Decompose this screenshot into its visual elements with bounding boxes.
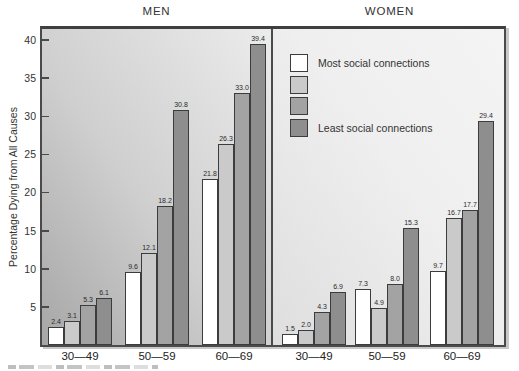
bar-men-60-69-series3 xyxy=(234,93,250,345)
bar-men-50-59-series1 xyxy=(125,272,141,345)
bar-women-30-49-series1 xyxy=(282,334,298,345)
bar-men-60-69-series1 xyxy=(202,179,218,345)
bar-value-label: 2.0 xyxy=(293,321,319,329)
bar-value-label: 15.3 xyxy=(398,219,424,227)
y-tick-label: 15 xyxy=(12,225,36,237)
bar-value-label: 6.9 xyxy=(325,283,351,291)
x-axis-label: 30—49 xyxy=(48,350,112,362)
y-tick-label: 20 xyxy=(12,186,36,198)
y-tick-label: 25 xyxy=(12,148,36,160)
plot-area: 2.43.15.36.19.612.118.230.821.826.333.03… xyxy=(40,26,506,347)
y-tick-mark xyxy=(42,306,49,308)
bar-value-label: 9.6 xyxy=(120,263,146,271)
bar-value-label: 16.7 xyxy=(441,209,467,217)
bar-value-label: 17.7 xyxy=(457,201,483,209)
bar-value-label: 12.1 xyxy=(136,244,162,252)
x-axis-label: 60—69 xyxy=(202,350,266,362)
y-tick-mark xyxy=(42,39,49,41)
bar-women-50-59-series3 xyxy=(387,284,403,345)
legend-swatch xyxy=(290,54,308,72)
x-axis-label: 50—59 xyxy=(355,350,419,362)
bar-women-30-49-series4 xyxy=(330,292,346,345)
bar-women-60-69-series1 xyxy=(430,271,446,345)
legend-label: Least social connections xyxy=(318,122,432,134)
y-tick-label: 5 xyxy=(12,301,36,313)
bar-value-label: 18.2 xyxy=(152,197,178,205)
bar-women-50-59-series2 xyxy=(371,308,387,345)
bar-value-label: 4.9 xyxy=(366,299,392,307)
y-tick-mark xyxy=(42,116,49,118)
bar-value-label: 8.0 xyxy=(382,275,408,283)
y-tick-mark xyxy=(42,154,49,156)
bar-women-60-69-series2 xyxy=(446,218,462,345)
x-axis-label: 60—69 xyxy=(430,350,494,362)
bar-men-30-49-series4 xyxy=(96,298,112,345)
bar-value-label: 6.1 xyxy=(91,289,117,297)
y-tick-mark xyxy=(42,230,49,232)
bar-value-label: 33.0 xyxy=(229,84,255,92)
panel-title-women: WOMEN xyxy=(273,5,506,19)
bar-men-50-59-series3 xyxy=(157,206,173,345)
bar-men-30-49-series3 xyxy=(80,305,96,345)
legend-swatch xyxy=(290,76,308,94)
y-tick-mark xyxy=(42,77,49,79)
y-tick-mark xyxy=(42,268,49,270)
bar-value-label: 9.7 xyxy=(425,262,451,270)
bar-value-label: 29.4 xyxy=(473,112,499,120)
panel-divider xyxy=(271,29,273,345)
bar-value-label: 3.1 xyxy=(59,312,85,320)
cropped-caption-fragment xyxy=(8,365,158,369)
bar-value-label: 39.4 xyxy=(245,35,271,43)
legend-swatch xyxy=(290,97,308,115)
bar-value-label: 26.3 xyxy=(213,135,239,143)
x-axis-label: 50—59 xyxy=(125,350,189,362)
figure: MEN WOMEN Percentage Dying from All Caus… xyxy=(0,0,519,371)
legend-label: Most social connections xyxy=(318,57,429,69)
panel-title-men: MEN xyxy=(40,5,273,19)
bar-men-30-49-series1 xyxy=(48,327,64,345)
bar-value-label: 21.8 xyxy=(197,170,223,178)
legend-swatch xyxy=(290,119,308,137)
bar-value-label: 30.8 xyxy=(168,101,194,109)
y-tick-mark xyxy=(42,192,49,194)
bar-women-60-69-series4 xyxy=(478,121,494,345)
bar-women-60-69-series3 xyxy=(462,210,478,345)
y-tick-label: 40 xyxy=(12,34,36,46)
bar-men-50-59-series4 xyxy=(173,110,189,345)
y-tick-label: 35 xyxy=(12,72,36,84)
x-axis-label: 30—49 xyxy=(282,350,346,362)
y-tick-label: 30 xyxy=(12,110,36,122)
bar-value-label: 7.3 xyxy=(350,280,376,288)
y-tick-label: 10 xyxy=(12,263,36,275)
bar-women-50-59-series4 xyxy=(403,228,419,345)
bar-value-label: 4.3 xyxy=(309,303,335,311)
